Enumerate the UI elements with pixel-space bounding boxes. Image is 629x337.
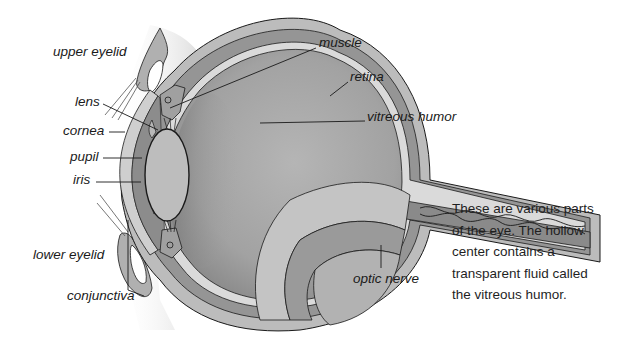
caption-line: of the eye. The hollow bbox=[452, 220, 622, 242]
caption-line: These are various parts bbox=[452, 198, 622, 220]
label-lower-eyelid: lower eyelid bbox=[33, 248, 104, 262]
label-conjunctiva: conjunctiva bbox=[67, 289, 135, 303]
label-pupil: pupil bbox=[70, 150, 99, 164]
caption-line: center contains a bbox=[452, 241, 622, 263]
caption-text: These are various parts of the eye. The … bbox=[452, 198, 622, 306]
lens-shape bbox=[145, 129, 189, 221]
label-upper-eyelid: upper eyelid bbox=[53, 45, 127, 59]
label-retina: retina bbox=[350, 70, 384, 84]
label-vitreous-humor: vitreous humor bbox=[367, 110, 456, 124]
label-optic-nerve: optic nerve bbox=[353, 272, 419, 286]
label-lens: lens bbox=[75, 95, 100, 109]
label-cornea: cornea bbox=[63, 124, 104, 138]
label-iris: iris bbox=[73, 173, 90, 187]
caption-line: the vitreous humor. bbox=[452, 284, 622, 306]
label-muscle: muscle bbox=[319, 36, 362, 50]
caption-line: transparent fluid called bbox=[452, 263, 622, 285]
